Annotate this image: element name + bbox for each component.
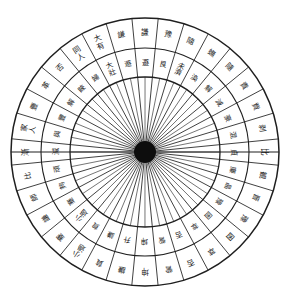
wheel-svg	[0, 0, 287, 299]
hexagram-wheel-diagram: 謙豫隨蟱隨責貲剥比観晋豫囦萃否訾坤謙貟小過蹇謙師比漸家人豐革否同人大有謙遯艮未濟…	[0, 0, 287, 299]
center-hub	[134, 141, 156, 163]
